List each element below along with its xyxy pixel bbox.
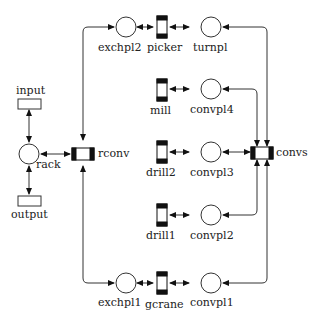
transition-drill2 (157, 141, 167, 163)
arc-convpl4-convs (223, 89, 257, 146)
place-exchpl2 (116, 17, 136, 37)
arc-turnpl-convs (223, 27, 267, 146)
port-input (18, 99, 41, 109)
transition-picker (157, 16, 167, 38)
place-convpl3 (201, 142, 221, 162)
transition-convs (251, 147, 273, 159)
transition-gcrane (157, 272, 167, 294)
port-output (18, 196, 41, 206)
label-rack: rack (36, 159, 61, 170)
label-convpl2: convpl2 (190, 230, 234, 241)
label-convs: convs (276, 147, 308, 158)
label-picker: picker (147, 42, 182, 53)
label-drill1: drill1 (146, 230, 176, 241)
label-convpl3: convpl3 (190, 167, 234, 178)
label-gcrane: gcrane (145, 299, 184, 310)
place-convpl2 (201, 205, 221, 225)
label-mill: mill (150, 105, 171, 116)
label-drill2: drill2 (146, 167, 176, 178)
label-convpl1: convpl1 (190, 297, 234, 308)
label-exchpl2: exchpl2 (98, 42, 142, 53)
transition-mill (157, 79, 167, 101)
transition-drill1 (157, 204, 167, 226)
label-convpl4: convpl4 (190, 104, 234, 115)
label-rconv: rconv (98, 148, 129, 159)
label-turnpl: turnpl (193, 42, 227, 53)
place-turnpl (201, 17, 221, 37)
label-input: input (16, 85, 45, 96)
place-convpl4 (201, 79, 221, 99)
arc-rconv-exchpl1 (83, 170, 114, 283)
label-exchpl1: exchpl1 (98, 297, 142, 308)
place-exchpl1 (116, 273, 136, 293)
place-convpl1 (201, 273, 221, 293)
label-output: output (11, 209, 48, 220)
transition-rconv (72, 148, 94, 160)
